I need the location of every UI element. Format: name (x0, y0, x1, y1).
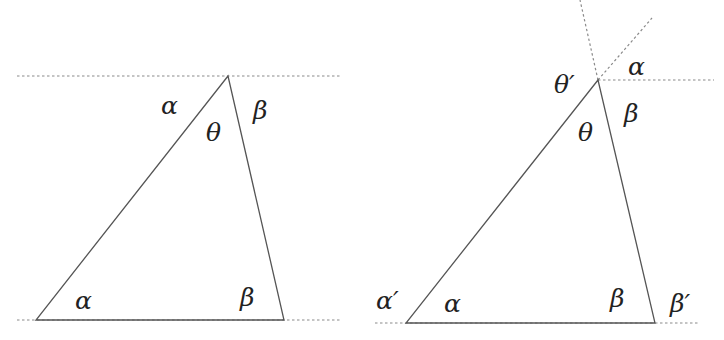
left-label-beta-bottom: β (240, 285, 254, 310)
left-label-alpha-bottom: α (75, 288, 92, 313)
right-label-beta-prime: β′ (670, 291, 690, 316)
right-right-side-extension (580, 0, 598, 80)
right-label-theta-prime: θ′ (554, 72, 575, 97)
right-label-alpha-prime: α′ (376, 288, 399, 313)
left-label-alpha-top: α (161, 93, 178, 118)
right-label-alpha-bottom: α (444, 291, 461, 316)
left-diagram (17, 76, 342, 320)
right-label-alpha-top: α (628, 54, 645, 79)
right-label-beta-top: β (624, 101, 638, 126)
left-label-beta-top: β (253, 98, 267, 123)
right-label-beta-bottom: β (610, 286, 624, 311)
right-label-theta-apex: θ (578, 120, 593, 145)
left-label-theta-apex: θ (206, 120, 221, 145)
right-diagram (375, 0, 714, 323)
